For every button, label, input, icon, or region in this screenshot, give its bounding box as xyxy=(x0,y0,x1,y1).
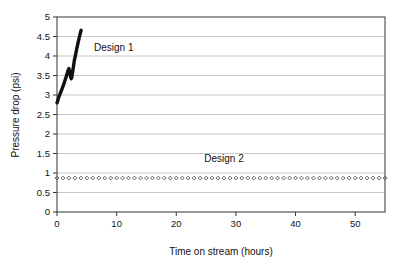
pressure-drop-chart: 00.511.522.533.544.55 01020304050 Design… xyxy=(0,0,403,264)
y-axis-tick-label: 0.5 xyxy=(37,187,50,198)
x-axis-tick-label: 20 xyxy=(171,218,182,229)
y-axis-tick-label: 3 xyxy=(45,89,50,100)
x-axis-tick-label: 0 xyxy=(54,218,59,229)
x-axis-tick-label: 50 xyxy=(350,218,361,229)
chart-canvas: 00.511.522.533.544.55 01020304050 Design… xyxy=(0,0,403,264)
chart-background xyxy=(0,0,403,264)
y-axis-tick-label: 0 xyxy=(45,206,50,217)
series-label-design-2: Design 2 xyxy=(204,153,244,164)
series-label-design-1: Design 1 xyxy=(94,42,134,53)
y-axis-title: Pressure drop (psi) xyxy=(10,72,21,157)
y-axis-tick-label: 1.5 xyxy=(37,148,50,159)
y-axis-tick-label: 4 xyxy=(45,50,50,61)
y-axis-tick-label: 5 xyxy=(45,11,50,22)
y-axis-tick-label: 2.5 xyxy=(37,109,50,120)
y-axis-tick-label: 2 xyxy=(45,128,50,139)
x-axis-tick-label: 10 xyxy=(111,218,122,229)
y-axis-tick-label: 3.5 xyxy=(37,70,50,81)
x-axis-title: Time on stream (hours) xyxy=(169,246,273,257)
y-axis-tick-label: 4.5 xyxy=(37,31,50,42)
x-axis-tick-label: 30 xyxy=(231,218,242,229)
x-axis-tick-label: 40 xyxy=(290,218,301,229)
y-axis-tick-label: 1 xyxy=(45,167,50,178)
